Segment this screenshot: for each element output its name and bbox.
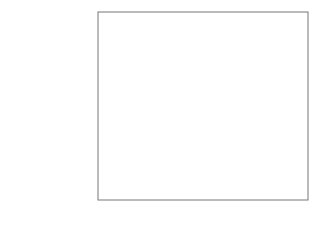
- bar-chart: [0, 0, 331, 231]
- plot-frame: [98, 12, 308, 200]
